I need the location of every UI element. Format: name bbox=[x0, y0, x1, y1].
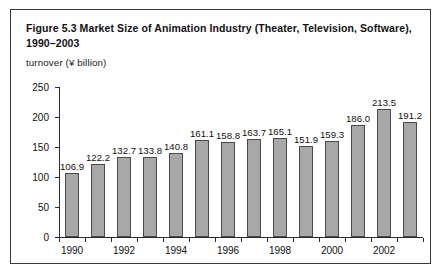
y-tick-label: 100 bbox=[19, 172, 49, 183]
bar bbox=[195, 140, 209, 237]
bar-value-label: 213.5 bbox=[364, 97, 404, 108]
x-tick-mark bbox=[319, 238, 320, 242]
x-tick-label: 2002 bbox=[362, 245, 406, 256]
bar bbox=[65, 173, 79, 237]
x-tick-mark bbox=[241, 238, 242, 242]
bar-value-label: 159.3 bbox=[312, 129, 352, 140]
bar-value-label: 186.0 bbox=[338, 113, 378, 124]
y-tick-label: 150 bbox=[19, 142, 49, 153]
bar bbox=[117, 157, 131, 237]
bar bbox=[299, 146, 313, 237]
bar bbox=[169, 153, 183, 237]
x-tick-mark bbox=[397, 238, 398, 242]
x-tick-mark bbox=[163, 238, 164, 242]
x-tick-label: 1994 bbox=[154, 245, 198, 256]
x-tick-label: 1990 bbox=[50, 245, 94, 256]
bar bbox=[273, 138, 287, 237]
bar bbox=[143, 157, 157, 237]
bar bbox=[351, 125, 365, 237]
y-tick-mark bbox=[55, 177, 59, 178]
x-tick-mark bbox=[371, 238, 372, 242]
y-tick-label: 250 bbox=[19, 82, 49, 93]
bar bbox=[91, 164, 105, 237]
x-tick-mark bbox=[59, 238, 60, 242]
bar bbox=[221, 142, 235, 237]
y-tick-label: 50 bbox=[19, 202, 49, 213]
bar-chart-plot: 050100150200250 106.9122.2132.7133.8140.… bbox=[11, 10, 432, 265]
y-tick-mark bbox=[55, 117, 59, 118]
bar bbox=[325, 141, 339, 237]
bar-value-label: 140.8 bbox=[156, 141, 196, 152]
y-tick-label: 0 bbox=[19, 232, 49, 243]
x-tick-label: 1996 bbox=[206, 245, 250, 256]
x-tick-mark bbox=[215, 238, 216, 242]
x-tick-mark bbox=[137, 238, 138, 242]
x-tick-mark bbox=[423, 238, 424, 242]
x-tick-mark bbox=[189, 238, 190, 242]
bar bbox=[403, 122, 417, 237]
x-tick-label: 1992 bbox=[102, 245, 146, 256]
bar-value-label: 191.2 bbox=[390, 110, 430, 121]
x-tick-mark bbox=[267, 238, 268, 242]
x-tick-mark bbox=[345, 238, 346, 242]
x-tick-label: 2000 bbox=[310, 245, 354, 256]
x-tick-label: 1998 bbox=[258, 245, 302, 256]
y-tick-mark bbox=[55, 207, 59, 208]
x-tick-mark bbox=[293, 238, 294, 242]
x-tick-mark bbox=[111, 238, 112, 242]
y-tick-mark bbox=[55, 87, 59, 88]
bar bbox=[247, 139, 261, 237]
x-tick-mark bbox=[85, 238, 86, 242]
figure-container: Figure 5.3 Market Size of Animation Indu… bbox=[10, 9, 431, 264]
y-tick-mark bbox=[55, 147, 59, 148]
bar bbox=[377, 109, 391, 237]
y-tick-label: 200 bbox=[19, 112, 49, 123]
